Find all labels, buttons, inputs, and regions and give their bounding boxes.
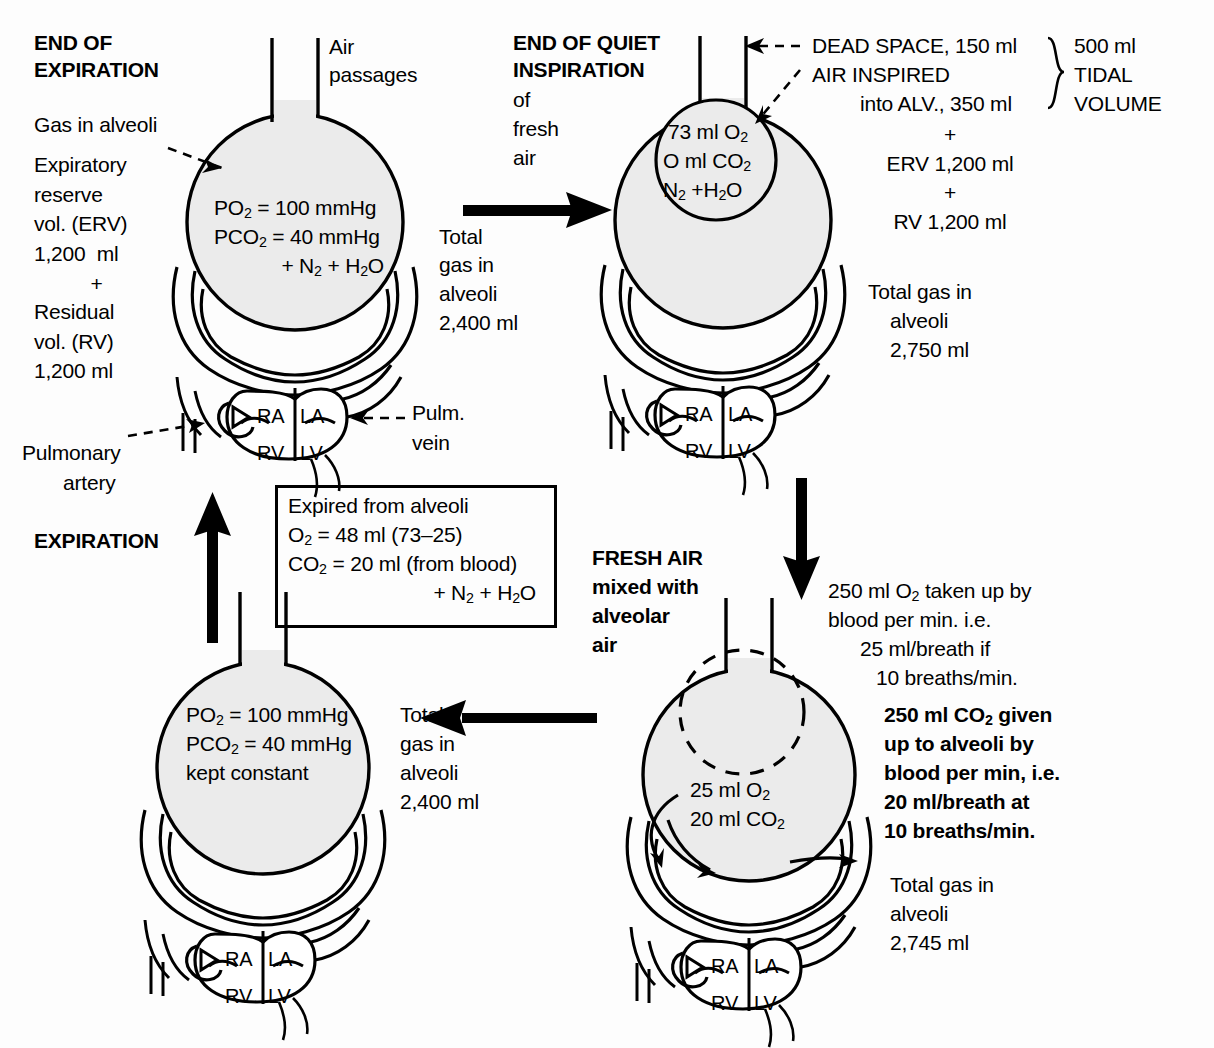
panel2-bubble-co2: O ml CO2 — [663, 148, 751, 175]
panel2-sub-1: fresh — [513, 116, 559, 143]
panel4-exchange-co2: 20 ml CO2 — [690, 806, 785, 833]
panel4-total-2: 2,745 ml — [890, 930, 969, 957]
panel2-sum-3: RV 1,200 ml — [860, 209, 1040, 236]
panel2-bubble-n2h2o: N2 +H2O — [663, 177, 742, 204]
panel1-note-7: 1,200 ml — [34, 358, 113, 385]
panel3-chamber-lv: LV — [268, 983, 291, 1010]
panel2-sum-0: + — [860, 122, 1040, 149]
pulm-vein-label-line1: Pulm. — [412, 400, 465, 427]
panel1-note-1: reserve — [34, 182, 103, 209]
panel1-total-2: alveoli — [439, 281, 497, 308]
panel3-total-3: 2,400 ml — [400, 789, 479, 816]
panel1-note-5: Residual — [34, 299, 114, 326]
expired-box-co2: CO2 = 20 ml (from blood) — [288, 551, 517, 578]
panel1-chamber-lv: LV — [300, 440, 323, 467]
panel2-bubble-o2: 73 ml O2 — [668, 119, 748, 146]
pulmonary-artery-label-line1: Pulmonary — [22, 440, 121, 467]
panel4-note2-1: up to alveoli by — [884, 731, 1034, 758]
pulm-vein-label-line2: vein — [412, 430, 450, 457]
tidal-volume-0: 500 ml — [1074, 33, 1136, 60]
panel1-note-2: vol. (ERV) — [34, 211, 127, 238]
expired-box-n2h2o: + N2 + H2O — [288, 580, 536, 607]
panel2-sum-2: + — [860, 180, 1040, 207]
panel4-chamber-ra: RA — [711, 953, 738, 980]
panel1-heading-line1: END OF — [34, 30, 112, 57]
panel1-total-3: 2,400 ml — [439, 310, 518, 337]
panel2-total-1: alveoli — [890, 308, 948, 335]
panel3-pco2: PCO2 = 40 mmHg — [186, 731, 352, 758]
panel4-total-0: Total gas in — [890, 872, 994, 899]
panel1-po2: PO2 = 100 mmHg — [214, 195, 376, 222]
panel1-note-4: + — [34, 271, 159, 298]
panel3-chamber-ra: RA — [225, 946, 252, 973]
air-passages-label-line1: Air — [329, 34, 354, 61]
panel1-total-1: gas in — [439, 252, 494, 279]
panel1-chamber-rv: RV — [257, 440, 284, 467]
panel2-sub-2: air — [513, 145, 536, 172]
panel2-sub-0: of — [513, 87, 530, 114]
panel4-exchange-o2: 25 ml O2 — [690, 777, 770, 804]
expired-box-o2: O2 = 48 ml (73–25) — [288, 522, 462, 549]
panel3-po2: PO2 = 100 mmHg — [186, 702, 348, 729]
panel1-note-0: Expiratory — [34, 152, 127, 179]
panel3-chamber-rv: RV — [225, 983, 252, 1010]
expired-box-line0: Expired from alveoli — [288, 493, 468, 520]
panel4-heading-1: mixed with — [592, 574, 699, 601]
panel1-chamber-la: LA — [300, 403, 324, 430]
panel1-total-0: Total — [439, 224, 482, 251]
tidal-volume-2: VOLUME — [1074, 91, 1162, 118]
panel3-kept-constant: kept constant — [186, 760, 308, 787]
panel4-chamber-lv: LV — [754, 990, 777, 1017]
panel2-chamber-ra: RA — [685, 401, 712, 428]
panel4-note-1: blood per min. i.e. — [828, 607, 991, 634]
panel4-note-2: 25 ml/breath if — [860, 636, 990, 663]
panel1-heading-line2: EXPIRATION — [34, 57, 159, 84]
panel4-note-0: 250 ml O2 taken up by — [828, 578, 1031, 605]
panel4-note2-3: 20 ml/breath at — [884, 789, 1029, 816]
gas-in-alveoli-label: Gas in alveoli — [34, 112, 157, 139]
respiration-diagram: END OF EXPIRATION Air passages Gas in al… — [0, 0, 1214, 1048]
panel4-note2-0: 250 ml CO2 given — [884, 702, 1052, 729]
panel3-total-0: Total — [400, 702, 443, 729]
panel1-note-6: vol. (RV) — [34, 329, 114, 356]
panel2-total-0: Total gas in — [868, 279, 972, 306]
panel2-sum-1: ERV 1,200 ml — [860, 151, 1040, 178]
panel1-pco2: PCO2 = 40 mmHg — [214, 224, 380, 251]
dead-space-label: DEAD SPACE, 150 ml — [812, 33, 1017, 60]
panel1-chamber-ra: RA — [257, 403, 284, 430]
panel2-total-2: 2,750 ml — [890, 337, 969, 364]
alveolus-expiration — [141, 592, 384, 1040]
air-inspired-line2: into ALV., 350 ml — [860, 91, 1012, 118]
panel2-chamber-lv: LV — [728, 438, 751, 465]
inspiration-arrow — [463, 192, 612, 228]
panel4-chamber-rv: RV — [711, 990, 738, 1017]
panel3-total-1: gas in — [400, 731, 455, 758]
panel1-n2h2o: + N2 + H2O — [214, 253, 384, 280]
panel4-heading-3: air — [592, 632, 617, 659]
air-passages-label-line2: passages — [329, 62, 417, 89]
panel3-heading: EXPIRATION — [34, 528, 159, 555]
panel2-heading-line1: END OF QUIET — [513, 30, 660, 57]
tidal-volume-1: TIDAL — [1074, 62, 1133, 89]
panel3-total-2: alveoli — [400, 760, 458, 787]
panel4-note-3: 10 breaths/min. — [876, 665, 1018, 692]
panel4-heading-2: alveolar — [592, 603, 670, 630]
air-inspired-line1: AIR INSPIRED — [812, 62, 950, 89]
panel4-note2-2: blood per min, i.e. — [884, 760, 1060, 787]
panel2-heading-line2: INSPIRATION — [513, 57, 645, 84]
panel2-chamber-rv: RV — [685, 438, 712, 465]
gas-exchange-arrow — [783, 478, 820, 600]
expiration-arrow — [194, 492, 231, 643]
panel4-chamber-la: LA — [754, 953, 778, 980]
panel4-note2-4: 10 breaths/min. — [884, 818, 1035, 845]
panel2-chamber-la: LA — [728, 401, 752, 428]
panel4-total-1: alveoli — [890, 901, 948, 928]
pulmonary-artery-label-line2: artery — [63, 470, 115, 497]
panel3-chamber-la: LA — [268, 946, 292, 973]
panel4-heading-0: FRESH AIR — [592, 545, 703, 572]
panel1-note-3: 1,200 ml — [34, 241, 119, 268]
